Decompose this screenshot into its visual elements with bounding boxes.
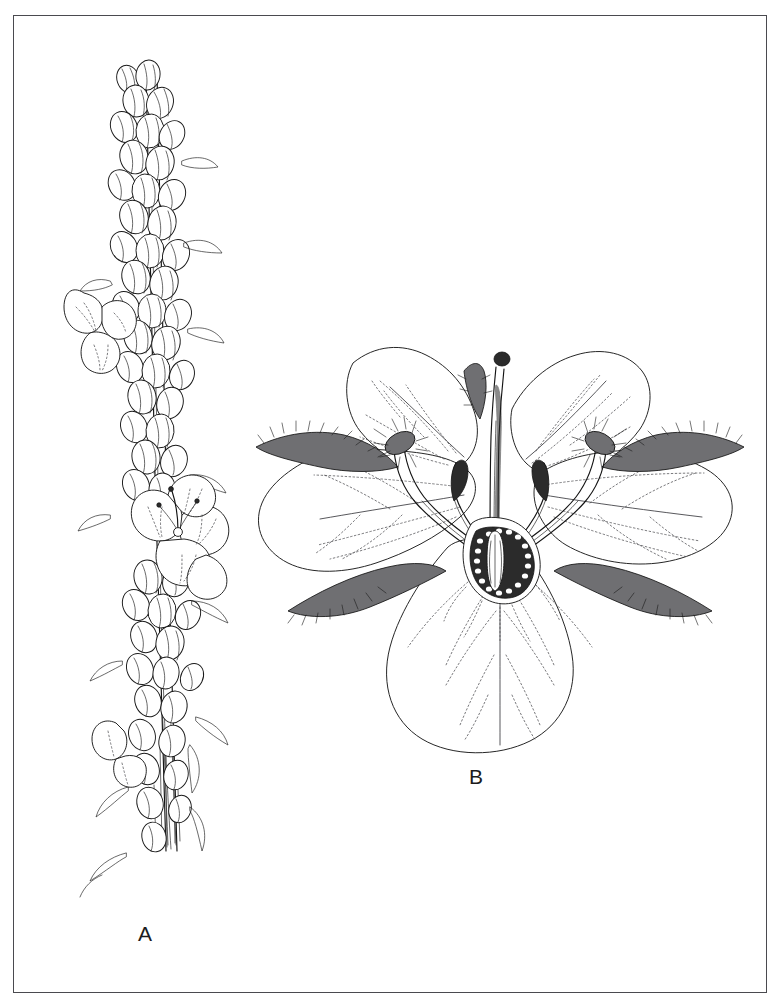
figure-b-label: B — [469, 766, 484, 787]
bud — [133, 784, 167, 822]
bud — [151, 655, 181, 690]
bud — [153, 624, 186, 662]
figure-a-flowering-spike — [50, 45, 250, 905]
figure-b-single-flower — [250, 325, 750, 755]
bud — [176, 660, 208, 695]
bud — [124, 715, 160, 754]
bud — [160, 757, 191, 792]
bud — [165, 792, 195, 825]
illustration-plate: A B — [0, 0, 773, 1008]
bud — [147, 593, 177, 629]
figure-a-label: A — [138, 923, 153, 944]
bud — [122, 649, 159, 689]
